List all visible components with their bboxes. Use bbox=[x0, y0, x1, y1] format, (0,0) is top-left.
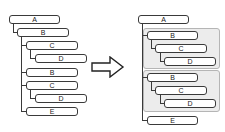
before-node-d: D bbox=[35, 94, 87, 103]
before-node-e: E bbox=[26, 107, 78, 116]
after-node-b: B bbox=[147, 73, 198, 82]
after-node-c: C bbox=[155, 44, 207, 53]
after-node-e: E bbox=[147, 116, 198, 125]
before-node-c: C bbox=[26, 41, 78, 50]
right-arrow-icon bbox=[91, 56, 125, 78]
connector-line bbox=[21, 37, 22, 112]
connector-line bbox=[142, 24, 143, 120]
after-node-d: D bbox=[164, 99, 216, 108]
after-node-a: A bbox=[138, 15, 189, 24]
before-node-b: B bbox=[26, 68, 78, 77]
before-node-b: B bbox=[17, 28, 69, 37]
before-node-a: A bbox=[9, 15, 60, 24]
after-node-d: D bbox=[164, 57, 216, 66]
after-node-b: B bbox=[147, 31, 198, 40]
before-node-d: D bbox=[35, 54, 87, 63]
after-node-c: C bbox=[155, 86, 207, 95]
before-node-c: C bbox=[26, 81, 78, 90]
